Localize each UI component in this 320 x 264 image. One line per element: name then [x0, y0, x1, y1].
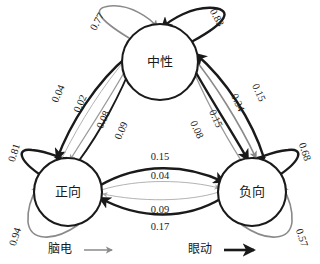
weight-negative-positive-eye: 0.17 — [151, 221, 169, 232]
legend: 脑电 眼动 — [48, 242, 254, 256]
edge-neutral-to-positive-eye — [57, 56, 128, 159]
weight-neutral-negative-eye: 0.08 — [188, 119, 206, 140]
node-positive[interactable]: 正向 — [34, 158, 102, 226]
node-negative-label: 负向 — [239, 184, 265, 199]
legend-item-eye: 眼动 — [188, 242, 254, 256]
node-neutral-label: 中性 — [147, 54, 173, 69]
diagram-canvas: 中性 正向 负向 0.77 0.83 0.81 0.94 0.68 0.57 0… — [0, 0, 320, 264]
state-transition-graph: 中性 正向 负向 0.77 0.83 0.81 0.94 0.68 0.57 0… — [0, 0, 320, 264]
weight-positive-negative-eeg: 0.04 — [151, 170, 170, 181]
weight-self-neutral-eeg: 0.77 — [88, 11, 106, 32]
node-neutral[interactable]: 中性 — [122, 24, 198, 100]
weight-self-positive-eeg: 0.94 — [7, 226, 23, 248]
node-positive-label: 正向 — [55, 184, 81, 199]
legend-label-eye: 眼动 — [188, 242, 212, 256]
legend-item-eeg: 脑电 — [48, 242, 112, 256]
weight-self-positive-eye: 0.81 — [6, 142, 22, 163]
weight-self-negative-eye: 0.68 — [297, 141, 313, 162]
legend-label-eeg: 脑电 — [48, 242, 72, 256]
weight-neutral-negative-eeg: 0.34 — [229, 92, 247, 114]
node-negative[interactable]: 负向 — [218, 158, 286, 226]
edge-negative-to-positive-eeg — [103, 192, 219, 200]
weight-neutral-positive-eye: 0.04 — [49, 82, 67, 104]
weight-self-negative-eeg: 0.57 — [294, 227, 310, 248]
edge-positive-to-negative-eeg — [101, 182, 219, 191]
weight-positive-neutral-eye: 0.09 — [112, 120, 130, 141]
weight-negative-neutral-eye: 0.15 — [250, 82, 268, 103]
weight-negative-neutral-eeg: 0.15 — [207, 108, 225, 129]
weight-positive-negative-eye: 0.15 — [151, 151, 169, 162]
weight-negative-positive-eeg: 0.09 — [151, 204, 169, 215]
